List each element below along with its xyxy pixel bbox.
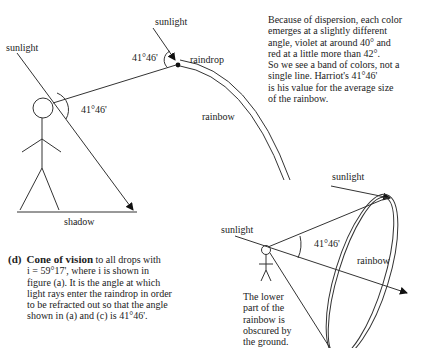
note-line: angle, violet at around 40° and [268,37,421,48]
note-line: of the rainbow. [268,93,421,104]
label-sunlight-left: sunlight [6,42,38,54]
rainbow-ellipse-inner [315,191,408,348]
sunlight-ray-observer [17,53,133,210]
ground-note-line: obscured by [243,325,313,336]
label-cone-angle: 41°46' [314,238,340,250]
caption-line: to be refracted out so that the angle [8,299,193,310]
observer-figure [20,98,61,210]
note-line: red at a little more than 42°. [268,48,421,59]
cone-sunlight-top [331,186,390,198]
sight-line-to-drop [53,65,176,103]
ground-note-line: rainbow is [243,314,313,325]
label-angle-observer: 41°46' [81,104,107,116]
note-line: So we see a band of colors, not a [268,59,421,70]
ground-note-line: The lower [243,291,313,302]
angle-arc-drop [164,51,170,68]
cone-observer [259,246,273,282]
label-sunlight-drop: sunlight [155,16,187,28]
ground-note-line: part of the [243,302,313,313]
caption-line: light rays enter the raindrop in order [8,288,193,299]
caption-line: to all drops with [96,254,161,265]
note-line: Because of dispersion, each color [268,14,421,25]
raindrop-dot [176,63,181,68]
label-angle-drop: 41°46' [132,52,158,64]
caption-line: i = 59°17', where i is shown in [8,265,193,276]
note-line: single line. Harriot's 41°46' [268,70,421,81]
label-cone-sunlight-left: sunlight [221,224,253,236]
caption-d-label: (d) [8,253,21,265]
label-raindrop: raindrop [190,54,224,66]
caption-d: (d) Cone of vision to all drops with i =… [8,254,193,322]
label-cone-rainbow: rainbow [357,255,390,267]
caption-d-title: Cone of vision [26,253,93,265]
caption-line: figure (a). It is the angle at which [8,277,193,288]
rainbow-ellipse-outer [311,187,412,348]
label-shadow: shadow [64,216,95,228]
note-line: emerges at a slightly different [268,25,421,36]
label-cone-sunlight-top: sunlight [332,171,364,183]
cone-angle-arc [298,236,301,258]
ground-note: The lower part of the rainbow is obscure… [243,291,313,347]
observer-head [33,98,53,118]
caption-line: shown in (a) and (c) is 41°46'. [8,310,193,321]
dispersion-note: Because of dispersion, each color emerge… [268,14,421,104]
note-line: is his value for the average size [268,82,421,93]
ground-note-line: the ground. [243,336,313,347]
label-rainbow: rainbow [202,111,235,123]
